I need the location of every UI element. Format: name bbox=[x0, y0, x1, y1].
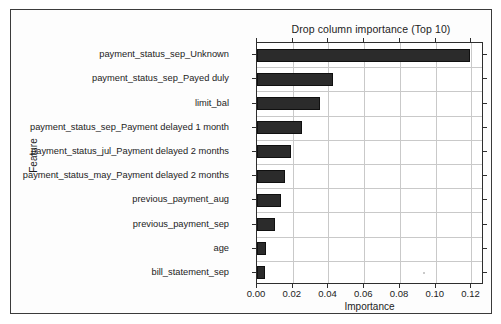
x-tick-mark bbox=[470, 38, 471, 42]
chart-title: Drop column importance (Top 10) bbox=[246, 23, 496, 35]
y-tick-mark bbox=[483, 272, 487, 273]
y-tick-mark bbox=[483, 54, 487, 55]
bar-row bbox=[257, 91, 320, 115]
figure-frame: Drop column importance (Top 10) Feature … bbox=[10, 9, 492, 314]
bar bbox=[257, 242, 266, 255]
y-tick-mark bbox=[483, 151, 487, 152]
x-tick-label: 0.12 bbox=[448, 288, 492, 299]
x-tick-mark bbox=[327, 284, 328, 288]
scan-artifact-speck bbox=[423, 272, 425, 274]
y-tick-label: age bbox=[0, 243, 229, 253]
bar-row bbox=[257, 164, 285, 188]
bar-row bbox=[257, 261, 265, 285]
x-tick-mark bbox=[363, 38, 364, 42]
x-tick-mark bbox=[327, 38, 328, 42]
x-tick-mark bbox=[399, 284, 400, 288]
bar-row bbox=[257, 237, 266, 261]
x-tick-mark bbox=[435, 38, 436, 42]
y-tick-label: bill_statement_sep bbox=[0, 267, 229, 277]
y-tick-mark bbox=[483, 103, 487, 104]
y-tick-label: payment_status_sep_Payed duly bbox=[0, 73, 229, 83]
x-axis-label: Importance bbox=[256, 301, 483, 312]
bar bbox=[257, 170, 285, 183]
gridline-horizontal bbox=[257, 237, 482, 238]
x-tick-mark bbox=[256, 38, 257, 42]
y-tick-mark bbox=[483, 224, 487, 225]
gridline-horizontal bbox=[257, 188, 482, 189]
y-tick-label: previous_payment_aug bbox=[0, 194, 229, 204]
x-tick-mark bbox=[292, 284, 293, 288]
y-tick-label: payment_status_sep_Unknown bbox=[0, 49, 229, 59]
gridline-horizontal bbox=[257, 212, 482, 213]
bar bbox=[257, 266, 265, 279]
gridline-vertical bbox=[400, 43, 401, 283]
y-tick-mark bbox=[483, 248, 487, 249]
bar bbox=[257, 218, 275, 231]
bar-row bbox=[257, 116, 302, 140]
x-tick-mark bbox=[399, 38, 400, 42]
x-tick-mark bbox=[435, 284, 436, 288]
bar-row bbox=[257, 212, 275, 236]
y-tick-mark bbox=[483, 127, 487, 128]
y-tick-label: limit_bal bbox=[0, 98, 229, 108]
y-tick-mark bbox=[483, 175, 487, 176]
x-tick-mark bbox=[363, 284, 364, 288]
bar bbox=[257, 97, 320, 110]
bar bbox=[257, 145, 291, 158]
y-tick-mark bbox=[483, 78, 487, 79]
gridline-vertical bbox=[471, 43, 472, 283]
bar bbox=[257, 49, 470, 62]
y-tick-mark bbox=[483, 199, 487, 200]
plot-area bbox=[256, 42, 483, 284]
bar bbox=[257, 121, 302, 134]
bar bbox=[257, 194, 281, 207]
gridline-horizontal bbox=[257, 164, 482, 165]
bar-row bbox=[257, 67, 333, 91]
gridline-vertical bbox=[436, 43, 437, 283]
y-tick-label: payment_status_sep_Payment delayed 1 mon… bbox=[0, 122, 229, 132]
chart-canvas: Drop column importance (Top 10) Feature … bbox=[11, 10, 491, 313]
x-tick-mark bbox=[470, 284, 471, 288]
x-tick-mark bbox=[256, 284, 257, 288]
y-tick-label: previous_payment_sep bbox=[0, 219, 229, 229]
bar bbox=[257, 73, 333, 86]
bar-row bbox=[257, 43, 470, 67]
gridline-vertical bbox=[364, 43, 365, 283]
x-tick-mark bbox=[292, 38, 293, 42]
y-tick-label: payment_status_may_Payment delayed 2 mon… bbox=[0, 170, 229, 180]
bar-row bbox=[257, 188, 281, 212]
bar-row bbox=[257, 140, 291, 164]
gridline-horizontal bbox=[257, 261, 482, 262]
y-tick-label: payment_status_jul_Payment delayed 2 mon… bbox=[0, 146, 229, 156]
